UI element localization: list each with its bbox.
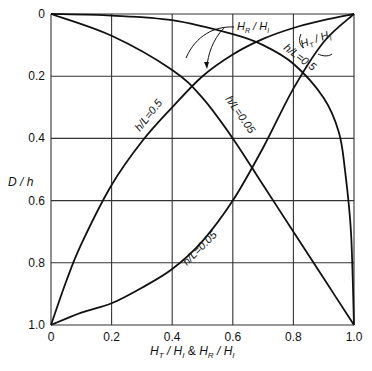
x-tick-label: 0.8 bbox=[285, 330, 302, 344]
label-ht-hl-005: h/L=0.05 bbox=[180, 228, 220, 268]
arrowhead-icon bbox=[204, 62, 209, 69]
label-ht-hl-05: h/L=0.5 bbox=[132, 96, 165, 133]
x-axis-label: HT / HI & HR / HI bbox=[150, 344, 235, 360]
y-tick-label: 0.8 bbox=[28, 256, 45, 270]
y-axis-label: D / h bbox=[8, 175, 34, 189]
x-tick-label: 1.0 bbox=[346, 330, 363, 344]
wave-transmission-reflection-chart: 00.20.40.60.81.0 00.20.40.60.81.0 D / h … bbox=[0, 0, 372, 371]
x-tick-labels: 00.20.40.60.81.0 bbox=[48, 330, 363, 344]
y-tick-labels: 00.20.40.60.81.0 bbox=[28, 7, 45, 332]
leader-arrow-hr bbox=[186, 27, 234, 58]
y-tick-label: 0.4 bbox=[28, 131, 45, 145]
x-tick-label: 0.4 bbox=[164, 330, 181, 344]
leader-arrow-hr-2 bbox=[207, 28, 224, 66]
y-tick-label: 0 bbox=[38, 7, 45, 21]
y-tick-label: 1.0 bbox=[28, 318, 45, 332]
y-tick-label: 0.2 bbox=[28, 69, 45, 83]
annotation-hr-hi: HR / HI bbox=[237, 20, 269, 34]
x-tick-label: 0.2 bbox=[103, 330, 120, 344]
x-tick-label: 0 bbox=[48, 330, 55, 344]
y-tick-label: 0.6 bbox=[28, 194, 45, 208]
x-tick-label: 0.6 bbox=[224, 330, 241, 344]
label-hr-hl-005: h/L=0.05 bbox=[223, 93, 258, 136]
